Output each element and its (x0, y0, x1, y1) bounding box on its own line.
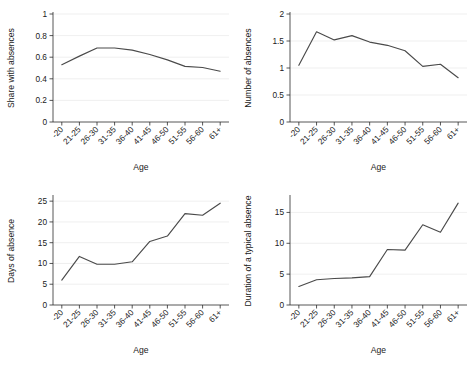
y-tick-label-3: 15 (275, 207, 285, 217)
x-tick-label-8: 56-60 (184, 307, 206, 329)
x-tick-label-4: 36-40 (114, 307, 136, 329)
x-tick-label-3: 31-35 (333, 124, 355, 146)
x-tick-label-2: 26-30 (78, 124, 100, 146)
y-tick-label-3: 15 (38, 238, 48, 248)
y-axis-title: Share with absences (6, 28, 16, 108)
x-tick-label-3: 31-35 (96, 307, 118, 329)
chart-svg-2: 0510152025-2021-2526-3031-3536-4041-4546… (0, 183, 237, 366)
y-tick-label-3: 0.6 (35, 52, 47, 62)
x-axis-title: Age (133, 345, 149, 355)
y-tick-label-2: 10 (38, 258, 48, 268)
y-tick-label-5: 25 (38, 196, 48, 206)
y-tick-label-4: 2 (279, 9, 284, 19)
series-line-days-of-absence (62, 203, 220, 280)
x-tick-label-9: 61+ (445, 124, 462, 141)
x-tick-label-6: 46-50 (149, 124, 171, 146)
x-tick-label-8: 56-60 (422, 307, 444, 329)
x-tick-label-2: 26-30 (316, 124, 338, 146)
y-tick-label-0: 0 (279, 117, 284, 127)
x-tick-label-5: 41-45 (369, 124, 391, 146)
x-tick-label-7: 51-55 (404, 307, 426, 329)
y-tick-label-2: 1 (279, 63, 284, 73)
x-tick-label-8: 56-60 (184, 124, 206, 146)
y-tick-label-2: 10 (275, 238, 285, 248)
panel-number-of-absences: 00.511.52-2021-2526-3031-3536-4041-4546-… (237, 0, 475, 183)
x-tick-label-1: 21-25 (61, 124, 83, 146)
x-tick-label-3: 31-35 (333, 307, 355, 329)
x-tick-label-5: 41-45 (369, 307, 391, 329)
y-tick-label-5: 1 (42, 9, 47, 19)
y-tick-label-0: 0 (42, 117, 47, 127)
y-axis-title: Number of absences (243, 28, 253, 107)
x-tick-label-2: 26-30 (78, 307, 100, 329)
x-tick-label-5: 41-45 (131, 124, 153, 146)
y-tick-label-4: 20 (38, 217, 48, 227)
y-tick-label-3: 1.5 (272, 36, 284, 46)
x-tick-label-9: 61+ (207, 307, 224, 324)
x-axis-title: Age (371, 345, 387, 355)
x-tick-label-5: 41-45 (131, 307, 153, 329)
x-axis-title: Age (371, 162, 387, 172)
x-tick-label-4: 36-40 (114, 124, 136, 146)
y-tick-label-4: 0.8 (35, 31, 47, 41)
y-axis-title: Days of absence (6, 219, 16, 283)
x-tick-label-3: 31-35 (96, 124, 118, 146)
y-tick-label-0: 0 (279, 300, 284, 310)
x-tick-label-6: 46-50 (149, 307, 171, 329)
x-tick-label-8: 56-60 (422, 124, 444, 146)
y-tick-label-1: 5 (279, 269, 284, 279)
x-tick-label-4: 36-40 (351, 307, 373, 329)
x-tick-label-1: 21-25 (61, 307, 83, 329)
y-tick-label-0: 0 (42, 300, 47, 310)
x-tick-label-2: 26-30 (316, 307, 338, 329)
x-tick-label-9: 61+ (445, 307, 462, 324)
x-tick-label-1: 21-25 (298, 124, 320, 146)
panel-duration-of-typical-absence: 051015-2021-2526-3031-3536-4041-4546-505… (237, 183, 475, 366)
y-axis-title: Duration of a typical absence (243, 195, 253, 306)
x-tick-label-6: 46-50 (386, 307, 408, 329)
multi-panel-chart-figure: 00.20.40.60.81-2021-2526-3031-3536-4041-… (0, 0, 475, 366)
x-axis-title: Age (133, 162, 149, 172)
y-tick-label-1: 0.2 (35, 95, 47, 105)
x-tick-label-1: 21-25 (298, 307, 320, 329)
chart-svg-0: 00.20.40.60.81-2021-2526-3031-3536-4041-… (0, 0, 237, 183)
x-tick-label-4: 36-40 (351, 124, 373, 146)
y-tick-label-1: 0.5 (272, 90, 284, 100)
x-tick-label-7: 51-55 (166, 307, 188, 329)
x-tick-label-9: 61+ (207, 124, 224, 141)
series-line-share-with-absences (62, 48, 220, 71)
x-tick-label-7: 51-55 (166, 124, 188, 146)
panel-share-with-absences: 00.20.40.60.81-2021-2526-3031-3536-4041-… (0, 0, 237, 183)
series-line-number-of-absences (299, 32, 458, 78)
y-tick-label-1: 5 (42, 279, 47, 289)
chart-svg-3: 051015-2021-2526-3031-3536-4041-4546-505… (237, 183, 475, 366)
panel-days-of-absence: 0510152025-2021-2526-3031-3536-4041-4546… (0, 183, 237, 366)
chart-svg-1: 00.511.52-2021-2526-3031-3536-4041-4546-… (237, 0, 475, 183)
x-tick-label-7: 51-55 (404, 124, 426, 146)
x-tick-label-6: 46-50 (386, 124, 408, 146)
y-tick-label-2: 0.4 (35, 74, 47, 84)
